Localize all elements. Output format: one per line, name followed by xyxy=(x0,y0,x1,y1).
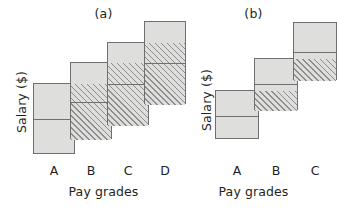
grade-range-box xyxy=(254,58,298,111)
grade-range-box xyxy=(215,90,259,140)
panel-b-plot-area xyxy=(205,0,328,160)
panel-a-y-axis-title: Salary ($) xyxy=(14,71,29,133)
x-tick-label: B xyxy=(254,163,298,178)
grade-range-box xyxy=(70,62,112,139)
x-tick-label: B xyxy=(70,163,112,178)
grade-range-box xyxy=(144,21,186,104)
grade-midpoint-line xyxy=(107,84,150,85)
grade-midpoint-line xyxy=(33,119,76,120)
grade-overlap-band xyxy=(71,84,111,140)
chart-panel-a: (a) Salary ($) Pay grades ABCD xyxy=(0,0,185,209)
grade-overlap-band xyxy=(255,91,297,112)
x-tick-label: A xyxy=(33,163,75,178)
panel-b-x-axis-title: Pay grades xyxy=(185,184,322,199)
grade-range-box xyxy=(33,83,75,153)
grade-midpoint-line xyxy=(70,102,113,103)
x-tick-label: C xyxy=(107,163,149,178)
grade-overlap-band xyxy=(294,59,336,81)
x-tick-label: A xyxy=(215,163,259,178)
grade-midpoint-line xyxy=(144,63,187,64)
chart-panel-b: (b) Salary ($) Pay grades ABC xyxy=(185,0,328,209)
x-tick-label: D xyxy=(144,163,186,178)
grade-midpoint-line xyxy=(215,116,260,117)
grade-midpoint-line xyxy=(254,84,299,85)
x-tick-label: C xyxy=(293,163,337,178)
grade-range-box xyxy=(107,42,149,125)
grade-midpoint-line xyxy=(293,52,337,53)
panel-a-x-axis-title: Pay grades xyxy=(22,184,185,199)
grade-range-box xyxy=(293,22,337,80)
panel-a-plot-area xyxy=(33,0,185,160)
grade-overlap-band xyxy=(145,43,185,105)
grade-overlap-band xyxy=(108,63,148,125)
